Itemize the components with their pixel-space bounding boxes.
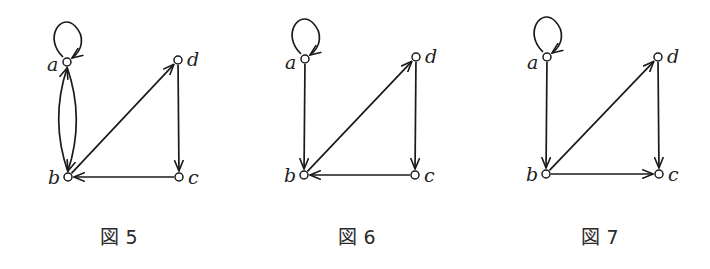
edge-a-to-b: [546, 62, 547, 168]
node-label-d: d: [187, 48, 199, 70]
node-label-a: a: [285, 51, 296, 73]
node-d: [412, 53, 420, 61]
edge-b-to-d: [307, 61, 411, 171]
node-a: [543, 53, 551, 61]
node-d: [174, 56, 182, 64]
node-label-b: b: [48, 166, 60, 188]
node-b: [64, 173, 72, 181]
node-label-b: b: [284, 164, 296, 186]
node-b: [542, 170, 550, 178]
figure-6: abcd図 6: [284, 19, 437, 248]
node-d: [654, 53, 662, 61]
edge-b-to-a: [59, 68, 68, 172]
node-label-b: b: [526, 163, 538, 185]
node-label-a: a: [47, 53, 58, 75]
edge-a-to-a: [534, 17, 561, 53]
edge-b-to-d: [549, 61, 653, 170]
edge-d-to-c: [658, 62, 659, 168]
edge-d-to-c: [178, 65, 179, 171]
edge-a-to-b: [304, 64, 305, 169]
node-a: [301, 55, 309, 63]
node-label-d: d: [425, 45, 437, 67]
node-b: [300, 171, 308, 179]
edge-a-to-a: [292, 19, 319, 55]
figure-7: abcd図 7: [526, 17, 679, 248]
node-c: [411, 171, 419, 179]
node-c: [655, 170, 663, 178]
node-c: [175, 173, 183, 181]
figure-caption: 図 7: [581, 226, 618, 248]
node-label-c: c: [424, 164, 435, 186]
edge-a-to-b: [67, 67, 76, 171]
node-label-c: c: [668, 163, 679, 185]
node-label-d: d: [667, 45, 679, 67]
figure-5: abcd図 5: [47, 22, 199, 248]
graph-figures-canvas: abcd図 5 abcd図 6 abcd図 7: [0, 0, 710, 269]
edge-d-to-c: [415, 62, 416, 169]
edge-b-to-d: [71, 64, 173, 173]
node-label-c: c: [188, 166, 199, 188]
figure-caption: 図 6: [338, 226, 375, 248]
figure-caption: 図 5: [100, 226, 137, 248]
node-label-a: a: [527, 51, 538, 73]
node-a: [63, 58, 71, 66]
